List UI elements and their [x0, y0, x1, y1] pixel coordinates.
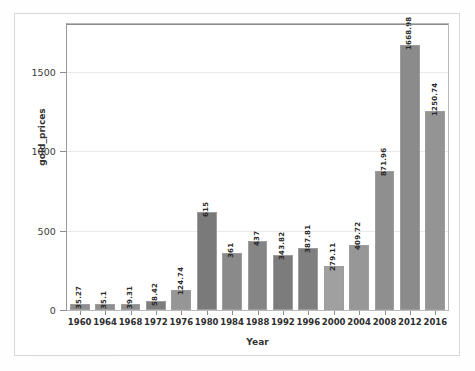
bar-value-label: 1250.74	[431, 83, 439, 116]
y-tick-mark	[60, 231, 66, 232]
bar	[400, 45, 420, 310]
bar-value-label: 58.42	[151, 283, 159, 306]
x-tick-mark	[232, 311, 233, 315]
x-tick-label: 2000	[322, 317, 346, 327]
bar-value-label: 871.96	[380, 148, 388, 176]
x-tick-label: 2004	[347, 317, 371, 327]
x-tick-label: 1972	[144, 317, 168, 327]
bar-value-label: 437	[253, 230, 261, 245]
y-tick-mark	[60, 72, 66, 73]
x-tick-label: 2008	[373, 317, 397, 327]
bar	[349, 245, 369, 310]
x-tick-mark	[385, 311, 386, 315]
x-tick-label: 2012	[398, 317, 422, 327]
bar	[197, 212, 217, 310]
bar-value-label: 361	[227, 242, 235, 257]
x-tick-label: 2016	[423, 317, 447, 327]
bar-value-label: 1668.98	[405, 17, 413, 50]
x-tick-mark	[181, 311, 182, 315]
x-tick-mark	[359, 311, 360, 315]
x-tick-mark	[308, 311, 309, 315]
y-tick-mark	[60, 151, 66, 152]
bar-value-label: 35.27	[75, 286, 83, 309]
plot-area: 35.2735.139.3158.42124.74615361437343.82…	[67, 24, 448, 310]
bar	[222, 253, 242, 310]
x-tick-label: 1968	[119, 317, 143, 327]
bar-value-label: 279.11	[329, 242, 337, 270]
x-tick-mark	[435, 311, 436, 315]
y-tick-label: 1500	[31, 66, 56, 77]
x-tick-label: 1964	[93, 317, 117, 327]
bar-value-label: 387.81	[304, 225, 312, 253]
y-tick-mark	[60, 310, 66, 311]
x-axis-baseline	[67, 24, 448, 25]
x-tick-mark	[283, 311, 284, 315]
x-tick-mark	[410, 311, 411, 315]
bar	[425, 111, 445, 310]
x-tick-label: 1980	[195, 317, 219, 327]
x-tick-mark	[80, 311, 81, 315]
bar-value-label: 615	[202, 202, 210, 217]
bar	[375, 171, 395, 310]
x-tick-label: 1988	[246, 317, 270, 327]
y-tick-label: 500	[38, 225, 56, 236]
bar-value-label: 124.74	[177, 267, 185, 295]
gridline	[67, 151, 448, 152]
bar-value-label: 409.72	[354, 222, 362, 250]
x-tick-label: 1960	[68, 317, 92, 327]
bar	[248, 241, 268, 310]
bar-value-label: 35.1	[100, 291, 108, 309]
figure-page: 35.2735.139.3158.42124.74615361437343.82…	[0, 0, 475, 371]
x-tick-label: 1996	[296, 317, 320, 327]
x-tick-mark	[105, 311, 106, 315]
x-tick-mark	[131, 311, 132, 315]
y-axis-title: gold_prices	[37, 87, 47, 187]
x-tick-label: 1984	[220, 317, 244, 327]
bar	[273, 255, 293, 310]
gridline	[67, 72, 448, 73]
bar	[298, 248, 318, 310]
bar	[324, 266, 344, 310]
x-tick-mark	[334, 311, 335, 315]
x-axis-title: Year	[66, 337, 449, 347]
x-tick-label: 1976	[169, 317, 193, 327]
x-tick-mark	[258, 311, 259, 315]
bar-value-label: 39.31	[126, 286, 134, 309]
bar-value-label: 343.82	[278, 232, 286, 260]
x-tick-mark	[207, 311, 208, 315]
y-tick-label: 0	[50, 305, 56, 316]
x-tick-mark	[156, 311, 157, 315]
x-tick-label: 1992	[271, 317, 295, 327]
